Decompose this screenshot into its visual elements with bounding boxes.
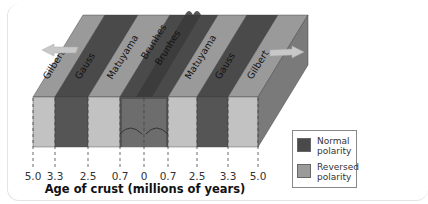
- front-stripe-reversed: [33, 97, 55, 147]
- legend-item-reversed: Reversed polarity: [297, 162, 359, 182]
- tick-label: 0.7: [160, 170, 177, 182]
- legend-normal-line1: Normal: [317, 136, 359, 146]
- legend-reversed-line2: polarity: [317, 172, 359, 182]
- tick-label: 5.0: [250, 170, 267, 182]
- front-stripe-reversed: [88, 97, 120, 147]
- tick-label: 3.3: [47, 170, 64, 182]
- legend-normal-line2: polarity: [317, 146, 359, 156]
- legend-item-normal: Normal polarity: [297, 136, 359, 156]
- legend-reversed-line1: Reversed: [317, 162, 359, 172]
- legend-label-normal: Normal polarity: [317, 136, 359, 156]
- front-stripe-reversed: [228, 97, 258, 147]
- legend-swatch-normal: [297, 138, 311, 152]
- tick-label: 3.3: [220, 170, 237, 182]
- tick-label: 2.5: [189, 170, 206, 182]
- tick-label: 0.7: [112, 170, 129, 182]
- legend-label-reversed: Reversed polarity: [317, 162, 359, 182]
- front-stripe-normal: [55, 97, 88, 147]
- legend-swatch-reversed: [297, 164, 311, 178]
- tick-label: 0: [141, 170, 148, 182]
- front-stripe-normal: [197, 97, 228, 147]
- axis-title: Age of crust (millions of years): [45, 182, 246, 196]
- tick-label: 5.0: [25, 170, 42, 182]
- legend: Normal polarity Reversed polarity: [292, 130, 357, 188]
- front-stripe-reversed: [168, 97, 197, 147]
- tick-label: 2.5: [80, 170, 97, 182]
